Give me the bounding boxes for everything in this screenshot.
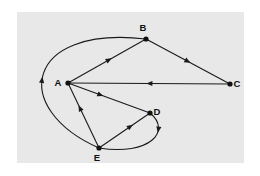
arrowheads-layer [39, 58, 190, 133]
edge-arrowhead [39, 77, 44, 83]
graph-vertex-B [143, 36, 148, 41]
directed-graph: ABCDE [0, 0, 260, 176]
edge-arrowhead [146, 81, 152, 86]
vertex-label-A: A [55, 77, 62, 88]
vertices-layer [65, 36, 232, 150]
diagram-page: ABCDE [0, 0, 260, 176]
vertex-label-E: E [94, 152, 100, 163]
edge-arrowhead [126, 125, 133, 131]
graph-edge-E-D [99, 113, 150, 148]
edges-layer [42, 37, 230, 149]
vertex-label-B: B [140, 22, 147, 33]
graph-vertex-D [147, 110, 152, 115]
graph-edge-D-E [99, 113, 159, 150]
vertex-label-D: D [154, 106, 161, 117]
edge-arrowhead [97, 91, 104, 96]
vertex-label-C: C [234, 78, 241, 89]
edge-arrowhead [156, 126, 161, 133]
graph-vertex-C [227, 81, 232, 86]
graph-vertex-A [65, 80, 70, 85]
vertex-labels-layer: ABCDE [55, 22, 241, 163]
graph-vertex-E [96, 145, 101, 150]
